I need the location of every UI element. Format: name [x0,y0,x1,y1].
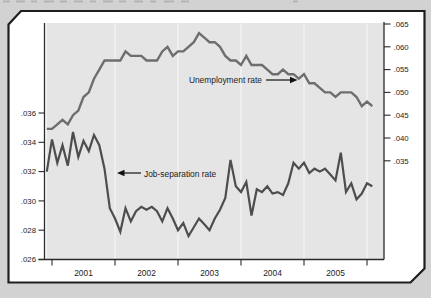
svg-text:.040: .040 [394,134,410,143]
svg-text:.030: .030 [21,197,37,206]
figure-panel: .026.028.030.032.034.036 .035.040.045.05… [0,0,431,298]
svg-text:.032: .032 [21,167,36,176]
svg-text:.045: .045 [394,111,410,120]
svg-text:2004: 2004 [263,268,282,278]
svg-text:.034: .034 [21,138,37,147]
chart-figure: .026.028.030.032.034.036 .035.040.045.05… [0,0,431,298]
svg-text:.035: .035 [394,157,410,166]
svg-text:2005: 2005 [326,268,345,278]
svg-text:.028: .028 [21,226,36,235]
cropped-text-remnant [3,1,298,3]
unemployment-rate-label: Unemployment rate [189,75,262,85]
svg-text:.065: .065 [394,20,410,29]
svg-text:.050: .050 [394,88,410,97]
svg-text:.055: .055 [394,65,410,74]
svg-text:.026: .026 [21,255,36,264]
svg-text:.060: .060 [394,43,410,52]
svg-text:2002: 2002 [137,268,156,278]
svg-text:2001: 2001 [74,268,93,278]
svg-text:.036: .036 [21,109,36,118]
job-separation-rate-label: Job-separation rate [144,169,217,179]
svg-text:2003: 2003 [200,268,219,278]
